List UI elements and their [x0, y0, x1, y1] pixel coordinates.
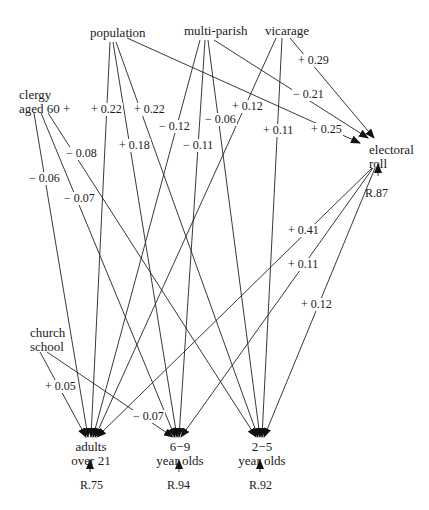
coef-vicarage-adults: + 0.12: [231, 100, 264, 113]
coef-electoral-adults: + 0.41: [287, 224, 320, 237]
path-multiparish-adults: [93, 40, 200, 437]
coef-church-adults: + 0.05: [44, 380, 77, 393]
coef-electoral-6-9: + 0.11: [287, 258, 319, 271]
six-nine-line1: 6−9: [150, 440, 210, 454]
coef-population-6-9: + 0.18: [118, 139, 151, 152]
coef-vicarage-2-5: + 0.11: [262, 124, 294, 137]
node-electoral-roll: electoral roll: [369, 143, 414, 171]
coef-clergy-6-9: − 0.07: [63, 192, 96, 205]
electoral-line1: electoral: [369, 143, 414, 157]
coef-multiparish-6-9: − 0.11: [182, 139, 214, 152]
coef-multiparish-electoral: − 0.21: [292, 88, 325, 101]
node-2-5-year-olds: 2−5 year olds: [232, 440, 292, 468]
residual-adults: R.75: [80, 478, 103, 493]
two-five-line1: 2−5: [232, 440, 292, 454]
node-church-school: church school: [30, 326, 65, 354]
path-diagram-lines: [0, 0, 429, 510]
church-line2: school: [30, 340, 65, 354]
coef-clergy-adults: − 0.06: [28, 172, 61, 185]
coef-vicarage-electoral: + 0.29: [297, 54, 330, 67]
church-line1: church: [30, 326, 65, 340]
node-multi-parish: multi-parish: [184, 24, 248, 38]
clergy-line2: aged 60 +: [19, 102, 70, 116]
coef-electoral-2-5: + 0.12: [300, 298, 333, 311]
path-vicarage-2-5: [262, 38, 282, 437]
clergy-line1: clergy: [19, 88, 70, 102]
coef-population-electoral: + 0.25: [310, 123, 343, 136]
residual-6-9: R.94: [167, 478, 190, 493]
residual-electoral-roll: R.87: [365, 186, 388, 201]
six-nine-line2: year olds: [150, 454, 210, 468]
adults-line2: over 21: [68, 454, 114, 468]
adults-line1: adults: [68, 440, 114, 454]
two-five-line2: year olds: [232, 454, 292, 468]
node-vicarage: vicarage: [265, 24, 309, 38]
node-population: population: [90, 26, 146, 40]
coef-church-6-9: − 0.07: [132, 410, 165, 423]
path-clergy-2-5: [48, 113, 256, 437]
node-adults-over-21: adults over 21: [68, 440, 114, 468]
path-church-adults: [40, 352, 86, 437]
electoral-line2: roll: [369, 157, 414, 171]
coef-population-adults: + 0.22: [90, 103, 123, 116]
residual-2-5: R.92: [249, 478, 272, 493]
coef-population-2-5: + 0.22: [133, 103, 166, 116]
path-multiparish-6-9: [179, 40, 205, 437]
node-6-9-year-olds: 6−9 year olds: [150, 440, 210, 468]
coef-multiparish-adults: − 0.12: [158, 120, 191, 133]
node-clergy-aged-60: clergy aged 60 +: [19, 88, 70, 116]
coef-multiparish-2-5: − 0.06: [204, 113, 237, 126]
coef-clergy-2-5: − 0.08: [65, 147, 98, 160]
